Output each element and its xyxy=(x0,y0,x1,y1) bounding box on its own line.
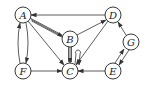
node-c-label: C xyxy=(66,66,74,77)
edge-a-f xyxy=(26,23,28,63)
node-f-label: F xyxy=(19,66,28,77)
node-a: A xyxy=(15,7,31,23)
node-g: G xyxy=(123,34,139,50)
node-b: B xyxy=(62,31,78,47)
edge-b-c xyxy=(69,47,72,63)
node-c: C xyxy=(62,63,78,79)
edge-e-g xyxy=(115,49,124,63)
node-e: E xyxy=(105,63,121,79)
edge-a-b xyxy=(30,18,63,37)
node-d: D xyxy=(105,7,121,23)
node-b-label: B xyxy=(65,34,73,45)
edge-f-a xyxy=(18,23,20,63)
node-a-label: A xyxy=(18,10,26,21)
edge-b-d xyxy=(77,20,106,35)
graph-canvas: A B C D E F G xyxy=(0,0,152,86)
node-g-label: G xyxy=(127,37,135,48)
node-e-label: E xyxy=(108,66,117,77)
node-f: F xyxy=(15,63,31,79)
node-d-label: D xyxy=(108,10,117,21)
edge-g-e xyxy=(119,50,129,65)
edge-g-d xyxy=(118,22,126,35)
graph-diagram: A B C D E F G xyxy=(0,0,152,86)
